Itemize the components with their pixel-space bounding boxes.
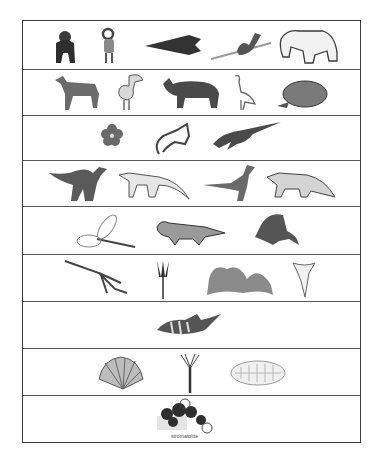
row-8: [23, 349, 360, 396]
trilobite-image: [229, 359, 287, 387]
fossil-timeline-worksheet: stromatolite: [22, 20, 361, 443]
giant-dragonfly-image: [77, 213, 139, 251]
iguanodon-image: [49, 165, 109, 203]
arrowhead-image: [145, 33, 203, 57]
spear-thrower-image: [211, 29, 273, 61]
early-mammal-image: [153, 122, 193, 156]
row-9: stromatolite: [23, 396, 360, 442]
burgess-shale-animal-image: [179, 353, 201, 393]
terror-bird-image: [115, 72, 145, 112]
brontothere-image: [163, 76, 221, 110]
cave-bear-image: [279, 27, 339, 65]
giant-tortoise-image: [275, 78, 331, 110]
gorilla-image: [53, 29, 77, 65]
early-horse-image: [55, 74, 103, 112]
stromatolite-caption: stromatolite: [171, 433, 198, 439]
eryops-amphibian-image: [155, 217, 227, 247]
bighorn-sheep-image: [99, 27, 119, 65]
row-2: [23, 70, 360, 116]
stromatolite-image: [157, 398, 215, 432]
shark-tooth-image: [291, 261, 317, 299]
brachiopod-shell-image: [97, 355, 145, 391]
early-dinosaur-image: [119, 171, 191, 201]
aetosaur-image: [267, 169, 337, 199]
coral-image: [203, 259, 275, 299]
row-4: [23, 161, 360, 207]
dimetrodon-image: [251, 211, 303, 251]
flower-image: [101, 124, 123, 146]
row-5: [23, 207, 360, 255]
row-7: [23, 302, 360, 349]
row-6: [23, 255, 360, 302]
dilophosaurus-image: [203, 163, 257, 203]
heron-image: [231, 74, 257, 112]
armored-fish-image: [157, 312, 221, 338]
row-1: [23, 21, 360, 70]
row-3: [23, 116, 360, 161]
orthocone-nautiloid-image: [65, 259, 133, 297]
crinoid-image: [155, 259, 171, 299]
plesiosaur-image: [213, 120, 285, 152]
